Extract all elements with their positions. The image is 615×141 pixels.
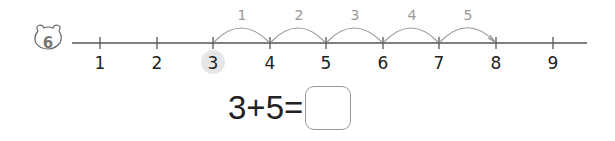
tick-labels: 1 2 3 4 5 6 7 8 9 (95, 53, 559, 73)
hop-label: 2 (295, 7, 304, 23)
tick-label: 2 (152, 53, 163, 73)
equation-equals: = (284, 89, 303, 127)
hop-arcs (214, 28, 494, 42)
hop-label: 3 (351, 7, 360, 23)
answer-box[interactable] (305, 86, 351, 130)
tick-label: 1 (95, 53, 106, 73)
tick-label: 6 (378, 53, 389, 73)
equation-operator: + (246, 89, 265, 127)
equation-left: 3 (228, 89, 246, 127)
hop-label: 1 (238, 7, 247, 23)
equation-right: 5 (266, 89, 284, 127)
problem-number: 6 (43, 34, 53, 52)
tick-label: 8 (491, 53, 502, 73)
tick-label: 4 (265, 53, 276, 73)
hop-label: 5 (464, 7, 473, 23)
tick-label: 9 (548, 53, 559, 73)
equation: 3 + 5 = (228, 86, 351, 130)
worksheet-problem: 6 1 2 3 4 5 6 7 8 9 (0, 0, 615, 141)
hop-labels: 1 2 3 4 5 (238, 7, 473, 23)
hop-label: 4 (408, 7, 417, 23)
tick-label: 3 (208, 53, 219, 73)
bear-face-icon: 6 (35, 25, 61, 52)
tick-label: 7 (434, 53, 445, 73)
tick-label: 5 (321, 53, 332, 73)
